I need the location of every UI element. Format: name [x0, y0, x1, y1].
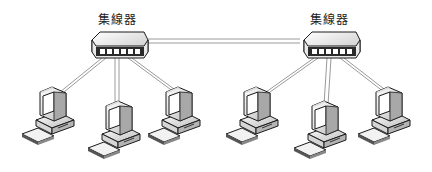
hub-2-cables — [266, 58, 388, 105]
computer-4 — [226, 87, 278, 145]
hub-1-cables — [60, 58, 178, 105]
hub-2-label: 集線器 — [310, 10, 349, 27]
network-diagram: 集線器 集線器 — [0, 0, 432, 172]
computer-6 — [358, 87, 410, 145]
hub-1 — [92, 32, 148, 58]
hub-link — [148, 39, 300, 43]
hub-2 — [304, 32, 360, 58]
computer-5 — [294, 101, 346, 159]
hub-1-label: 集線器 — [98, 10, 137, 27]
computer-3 — [148, 87, 200, 145]
diagram-canvas — [0, 0, 432, 172]
computer-2 — [88, 101, 140, 159]
computer-1 — [22, 87, 74, 145]
